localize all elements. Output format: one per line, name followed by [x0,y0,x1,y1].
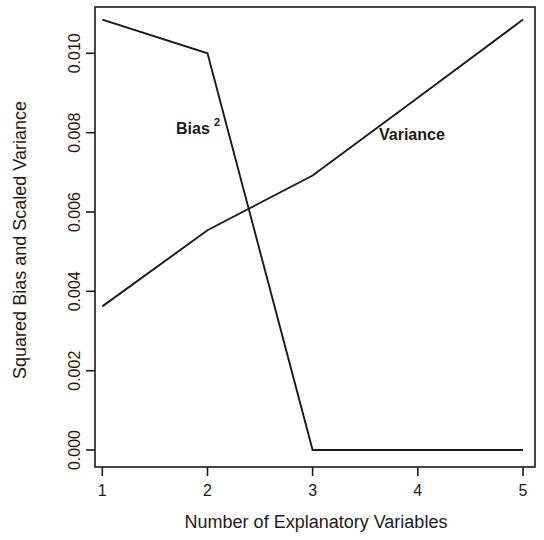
variance-label: Variance [379,126,445,143]
y-tick-label-2: 0.004 [66,271,83,311]
x-tick-label-2: 3 [308,482,317,499]
x-axis-tick-labels: 1 2 3 4 5 [98,482,528,499]
series-annotation-bias-squared: Bias 2 [176,116,220,137]
series-line-variance [102,20,523,307]
x-tick-label-1: 2 [203,482,212,499]
x-tick-label-0: 1 [98,482,107,499]
x-axis-ticks [102,467,523,476]
bias-squared-label: Bias [176,120,210,137]
x-axis-title: Number of Explanatory Variables [185,512,448,532]
plot-frame [95,7,535,467]
y-axis-tick-labels: 0.000 0.002 0.004 0.006 0.008 0.010 [66,33,83,470]
x-tick-label-3: 4 [413,482,422,499]
y-tick-label-5: 0.010 [66,33,83,73]
y-axis-title: Squared Bias and Scaled Variance [10,101,30,379]
chart-canvas: 0.000 0.002 0.004 0.006 0.008 0.010 1 2 … [0,0,544,540]
y-tick-label-1: 0.002 [66,351,83,391]
series-annotation-variance: Variance [379,126,445,143]
bias-squared-superscript: 2 [214,116,220,128]
y-tick-label-0: 0.000 [66,430,83,470]
y-tick-label-4: 0.008 [66,113,83,153]
y-axis-ticks [86,53,95,450]
chart-figure: 0.000 0.002 0.004 0.006 0.008 0.010 1 2 … [0,0,544,540]
data-series-group [102,20,523,450]
y-tick-label-3: 0.006 [66,192,83,232]
series-line-bias-squared [102,20,523,450]
x-tick-label-4: 5 [519,482,528,499]
